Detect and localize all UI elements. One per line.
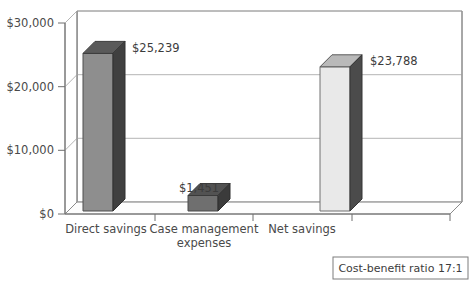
- bar-direct-savings: [83, 41, 125, 211]
- xtick-label-case-management-line1: Case management: [150, 222, 259, 236]
- bar-chart: $30,000 $20,000 $10,000 $0 $25,239 $1,45…: [0, 0, 475, 288]
- plot-floor: [65, 202, 462, 214]
- bar-3-side-face: [350, 55, 362, 211]
- bar-3-value-label: $23,788: [370, 54, 418, 68]
- ytick-label-0: $0: [39, 207, 54, 221]
- ytick-label-30000: $30,000: [6, 16, 54, 30]
- xtick-label-case-management-line2: expenses: [177, 236, 231, 250]
- bar-net-savings: [320, 55, 362, 211]
- cost-benefit-ratio-label: Cost-benefit ratio 17:1: [338, 262, 462, 275]
- bar-1-side-face: [113, 41, 125, 211]
- xtick-label-direct-savings: Direct savings: [65, 222, 147, 236]
- bar-3-front-face: [320, 67, 350, 211]
- plot-back-wall: [77, 11, 462, 202]
- bar-1-value-label: $25,239: [132, 41, 180, 55]
- ytick-label-20000: $20,000: [6, 80, 54, 94]
- xtick-label-net-savings: Net savings: [268, 222, 335, 236]
- ytick-label-10000: $10,000: [6, 143, 54, 157]
- plot-left-wall: [65, 11, 77, 214]
- bar-1-front-face: [83, 53, 113, 211]
- chart-container: $30,000 $20,000 $10,000 $0 $25,239 $1,45…: [0, 0, 475, 288]
- bar-2-front-face: [188, 196, 218, 212]
- bar-2-value-label: $1,451: [179, 181, 219, 195]
